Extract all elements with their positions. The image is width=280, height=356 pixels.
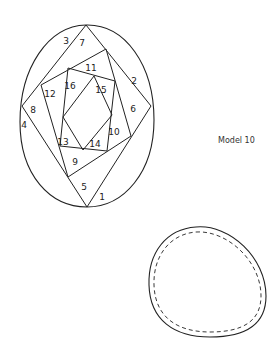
segment-label: 15 (95, 85, 106, 95)
segment-label: 3 (63, 36, 69, 46)
segment-label: 12 (44, 89, 55, 99)
model-caption: Model 10 (218, 136, 255, 145)
segment-label: 9 (72, 157, 78, 167)
segment-label: 4 (21, 120, 27, 130)
segment-label: 2 (131, 76, 137, 86)
iris-fold-diagram: 12345678910111213141516 (0, 0, 280, 356)
segment-label: 7 (79, 38, 85, 48)
template-egg-outline (149, 227, 266, 337)
segment-label: 10 (108, 127, 120, 137)
segment-label: 6 (130, 104, 136, 114)
pattern-egg-outline (20, 25, 154, 207)
segment-label: 13 (57, 137, 68, 147)
segment-label: 16 (64, 81, 76, 91)
segment-labels: 12345678910111213141516 (21, 36, 137, 202)
segment-label: 1 (99, 192, 105, 202)
segment-label: 5 (81, 182, 87, 192)
pattern-lines (22, 25, 151, 207)
segment-label: 8 (30, 105, 36, 115)
segment-label: 14 (89, 139, 101, 149)
segment-label: 11 (85, 63, 96, 73)
